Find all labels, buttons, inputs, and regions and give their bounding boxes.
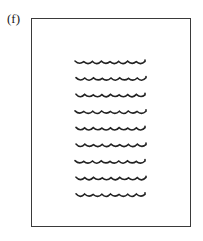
scribble-line <box>76 193 145 197</box>
scribble-lines <box>0 0 203 241</box>
scribble-line <box>75 60 145 64</box>
scribble-line <box>76 77 146 81</box>
scribble-line <box>76 176 146 180</box>
scribble-line <box>76 126 145 130</box>
scribble-line <box>76 143 146 147</box>
scribble-line <box>75 160 145 164</box>
scribble-line <box>76 93 145 97</box>
scribble-line <box>75 110 146 114</box>
